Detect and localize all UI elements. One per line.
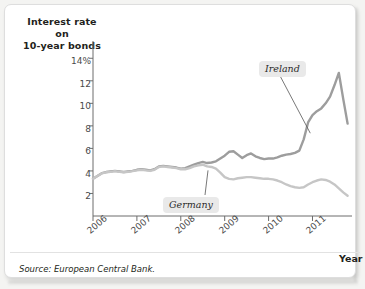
annotation-ireland: Ireland	[259, 61, 306, 77]
y-axis-tick-label: 2	[61, 191, 91, 201]
y-axis-tick-label: 12	[61, 79, 91, 89]
chart-series-layer	[93, 73, 348, 196]
series-line-germany	[93, 165, 348, 196]
series-line-ireland	[93, 73, 348, 179]
x-axis-title: Year	[339, 253, 363, 264]
card-shadow-bottom	[8, 281, 358, 286]
y-axis-tick-label: 10	[61, 101, 91, 111]
source-note: Source: European Central Bank.	[19, 264, 155, 274]
chart-axes	[89, 41, 352, 221]
y-axis-tick-label: 8	[61, 124, 91, 134]
figure-card: Interest rate on 10-year bonds 246810121…	[4, 4, 356, 278]
y-axis-tick-label: 4	[61, 169, 91, 179]
source-divider	[10, 252, 360, 253]
y-axis-tick-label: 14%	[61, 56, 91, 66]
y-axis-tick-label: 6	[61, 146, 91, 156]
leader-line	[278, 72, 310, 133]
leader-line	[205, 170, 208, 195]
chart-plot-area	[5, 5, 357, 279]
chart-leader-lines	[205, 72, 310, 195]
figure-container: Interest rate on 10-year bonds 246810121…	[0, 0, 365, 289]
annotation-germany: Germany	[163, 197, 219, 213]
